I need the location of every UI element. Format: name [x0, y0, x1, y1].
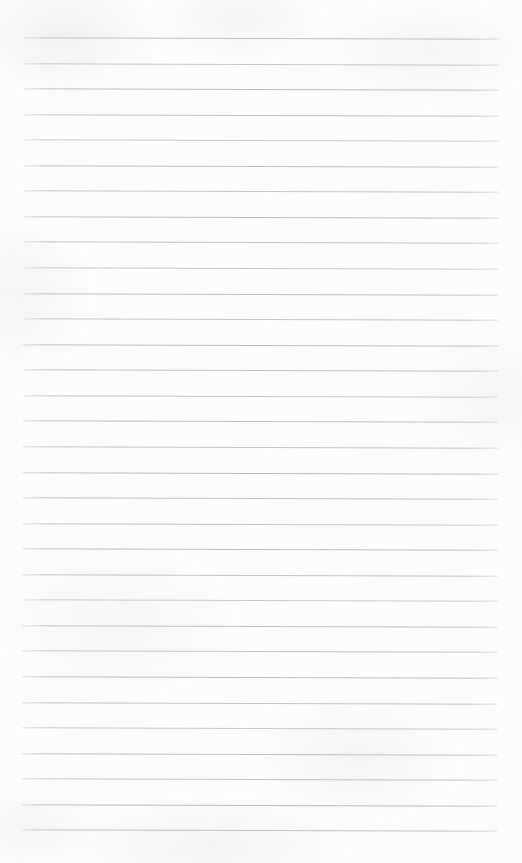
ruled-paper-page — [0, 0, 522, 863]
writing-area[interactable] — [23, 38, 498, 831]
